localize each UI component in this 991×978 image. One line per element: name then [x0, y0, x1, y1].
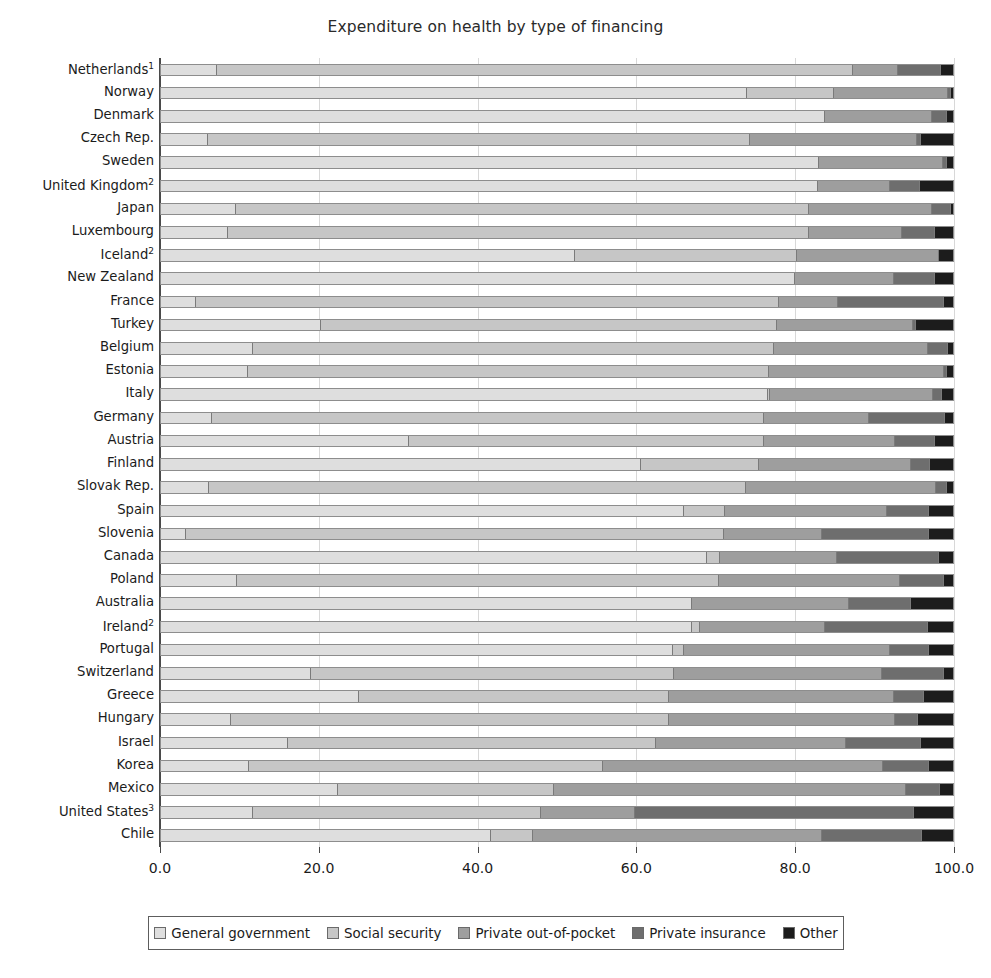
stacked-bar[interactable] [160, 667, 954, 680]
bar-segment[interactable] [919, 181, 953, 192]
bar-segment[interactable] [833, 88, 947, 99]
stacked-bar[interactable] [160, 272, 954, 285]
bar-segment[interactable] [161, 366, 247, 377]
bar-segment[interactable] [252, 807, 540, 818]
bar-segment[interactable] [928, 506, 953, 517]
bar-segment[interactable] [894, 714, 916, 725]
bar-segment[interactable] [161, 273, 794, 284]
bar-segment[interactable] [886, 506, 929, 517]
bar-segment[interactable] [920, 738, 953, 749]
stacked-bar[interactable] [160, 551, 954, 564]
bar-segment[interactable] [161, 622, 691, 633]
bar-segment[interactable] [773, 343, 927, 354]
bar-segment[interactable] [848, 598, 910, 609]
stacked-bar[interactable] [160, 760, 954, 773]
bar-segment[interactable] [927, 622, 953, 633]
bar-segment[interactable] [553, 784, 905, 795]
legend-item[interactable]: Private out-of-pocket [458, 926, 615, 941]
bar-segment[interactable] [901, 227, 934, 238]
bar-segment[interactable] [161, 436, 408, 447]
bar-segment[interactable] [943, 575, 953, 586]
bar-segment[interactable] [943, 297, 953, 308]
bar-segment[interactable] [668, 714, 894, 725]
bar-segment[interactable] [161, 343, 252, 354]
bar-segment[interactable] [943, 668, 953, 679]
bar-segment[interactable] [921, 830, 953, 841]
bar-segment[interactable] [763, 413, 868, 424]
bar-segment[interactable] [211, 413, 764, 424]
bar-segment[interactable] [929, 459, 953, 470]
bar-segment[interactable] [161, 482, 208, 493]
bar-segment[interactable] [923, 691, 953, 702]
bar-segment[interactable] [408, 436, 764, 447]
bar-segment[interactable] [913, 807, 953, 818]
bar-segment[interactable] [252, 343, 773, 354]
bar-segment[interactable] [934, 273, 953, 284]
bar-segment[interactable] [928, 645, 953, 656]
legend-item[interactable]: Social security [327, 926, 441, 941]
bar-segment[interactable] [672, 645, 682, 656]
bar-segment[interactable] [778, 297, 837, 308]
stacked-bar[interactable] [160, 249, 954, 262]
bar-segment[interactable] [946, 157, 953, 168]
bar-segment[interactable] [161, 506, 683, 517]
stacked-bar[interactable] [160, 342, 954, 355]
bar-segment[interactable] [947, 343, 953, 354]
bar-segment[interactable] [161, 111, 824, 122]
stacked-bar[interactable] [160, 435, 954, 448]
bar-segment[interactable] [941, 389, 953, 400]
bar-segment[interactable] [824, 622, 927, 633]
bar-segment[interactable] [758, 459, 910, 470]
stacked-bar[interactable] [160, 644, 954, 657]
bar-segment[interactable] [161, 250, 574, 261]
bar-segment[interactable] [208, 482, 745, 493]
bar-segment[interactable] [946, 111, 953, 122]
stacked-bar[interactable] [160, 481, 954, 494]
bar-segment[interactable] [768, 366, 943, 377]
bar-segment[interactable] [910, 459, 929, 470]
bar-segment[interactable] [934, 227, 953, 238]
bar-segment[interactable] [928, 761, 953, 772]
bar-segment[interactable] [897, 65, 940, 76]
bar-segment[interactable] [836, 552, 938, 563]
bar-segment[interactable] [673, 668, 880, 679]
legend-item[interactable]: Other [783, 926, 838, 941]
bar-segment[interactable] [938, 552, 953, 563]
bar-segment[interactable] [247, 366, 768, 377]
bar-segment[interactable] [490, 830, 532, 841]
bar-segment[interactable] [763, 436, 894, 447]
bar-segment[interactable] [161, 807, 252, 818]
stacked-bar[interactable] [160, 690, 954, 703]
bar-segment[interactable] [235, 204, 808, 215]
bar-segment[interactable] [932, 389, 941, 400]
bar-segment[interactable] [920, 134, 953, 145]
stacked-bar[interactable] [160, 226, 954, 239]
bar-segment[interactable] [683, 506, 723, 517]
bar-segment[interactable] [946, 366, 953, 377]
bar-segment[interactable] [946, 482, 953, 493]
bar-segment[interactable] [935, 482, 945, 493]
bar-segment[interactable] [927, 343, 948, 354]
bar-segment[interactable] [893, 273, 933, 284]
bar-segment[interactable] [769, 389, 932, 400]
bar-segment[interactable] [796, 250, 938, 261]
bar-segment[interactable] [161, 784, 337, 795]
bar-segment[interactable] [893, 691, 922, 702]
bar-segment[interactable] [540, 807, 634, 818]
bar-segment[interactable] [161, 65, 216, 76]
bar-segment[interactable] [818, 157, 942, 168]
bar-segment[interactable] [216, 65, 852, 76]
stacked-bar[interactable] [160, 505, 954, 518]
bar-segment[interactable] [950, 88, 953, 99]
bar-segment[interactable] [337, 784, 553, 795]
stacked-bar[interactable] [160, 806, 954, 819]
bar-segment[interactable] [161, 297, 195, 308]
bar-segment[interactable] [928, 529, 953, 540]
bar-segment[interactable] [808, 227, 900, 238]
bar-segment[interactable] [161, 389, 767, 400]
legend-item[interactable]: General government [154, 926, 310, 941]
bar-segment[interactable] [691, 622, 698, 633]
bar-segment[interactable] [746, 88, 834, 99]
stacked-bar[interactable] [160, 180, 954, 193]
bar-segment[interactable] [894, 436, 934, 447]
